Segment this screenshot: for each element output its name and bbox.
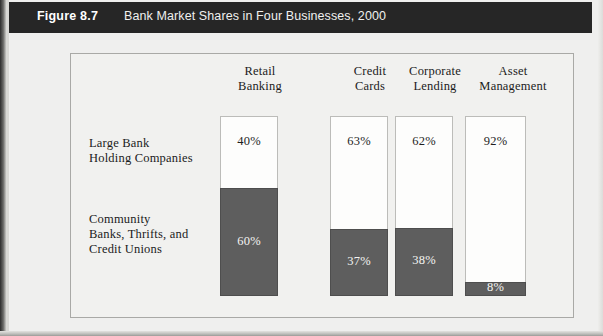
chart-frame: Retail Banking Credit Cards Corporate Le… bbox=[70, 53, 574, 318]
row-label-line: Credit Unions bbox=[89, 242, 188, 257]
bar-credit-cards: 63% 37% bbox=[330, 116, 388, 296]
scan-bottom-edge bbox=[0, 331, 603, 336]
column-header-retail-banking: Retail Banking bbox=[217, 64, 303, 94]
bar-value-label: 37% bbox=[347, 254, 371, 269]
bar-value-label: 8% bbox=[487, 280, 504, 295]
bar-corporate-lending: 62% 38% bbox=[395, 116, 453, 296]
bar-segment-large-bank-holding-companies: 40% bbox=[220, 116, 278, 188]
scan-gutter-light bbox=[6, 0, 9, 336]
column-header-line: Retail bbox=[217, 64, 303, 79]
bar-segment-large-bank-holding-companies: 62% bbox=[395, 116, 453, 228]
column-header-line: Asset bbox=[463, 64, 563, 79]
bar-value-label: 40% bbox=[237, 134, 261, 149]
page-title: Bank Market Shares in Four Businesses, 2… bbox=[124, 9, 386, 23]
bar-segment-community-banks: 60% bbox=[220, 188, 278, 296]
row-label-line: Community bbox=[89, 212, 188, 227]
figure-title-band: Figure 8.7 Bank Market Shares in Four Bu… bbox=[9, 2, 592, 33]
bar-segment-community-banks: 37% bbox=[330, 229, 388, 296]
bar-value-label: 62% bbox=[412, 134, 436, 149]
bar-value-label: 63% bbox=[347, 134, 371, 149]
bar-retail-banking: 40% 60% bbox=[220, 116, 278, 296]
row-label-line: Banks, Thrifts, and bbox=[89, 227, 188, 242]
bar-asset-management: 92% 8% bbox=[465, 116, 526, 296]
bar-segment-community-banks: 8% bbox=[465, 282, 526, 296]
bar-segment-community-banks: 38% bbox=[395, 228, 453, 296]
column-header-line: Management bbox=[463, 79, 563, 94]
figure-number: Figure 8.7 bbox=[37, 9, 98, 23]
scan-right-edge bbox=[598, 0, 603, 336]
bar-value-label: 60% bbox=[237, 234, 261, 249]
row-label-large-bank-holding-companies: Large Bank Holding Companies bbox=[89, 136, 193, 166]
bar-value-label: 92% bbox=[484, 134, 508, 149]
row-label-line: Holding Companies bbox=[89, 151, 193, 166]
bar-segment-large-bank-holding-companies: 63% bbox=[330, 116, 388, 229]
row-label-line: Large Bank bbox=[89, 136, 193, 151]
bar-segment-large-bank-holding-companies: 92% bbox=[465, 116, 526, 282]
column-header-line: Banking bbox=[217, 79, 303, 94]
figure-page: Figure 8.7 Bank Market Shares in Four Bu… bbox=[0, 0, 603, 336]
bar-value-label: 38% bbox=[412, 253, 436, 268]
row-label-community-banks-thrifts-credit-unions: Community Banks, Thrifts, and Credit Uni… bbox=[89, 212, 188, 257]
column-header-asset-management: Asset Management bbox=[463, 64, 563, 94]
